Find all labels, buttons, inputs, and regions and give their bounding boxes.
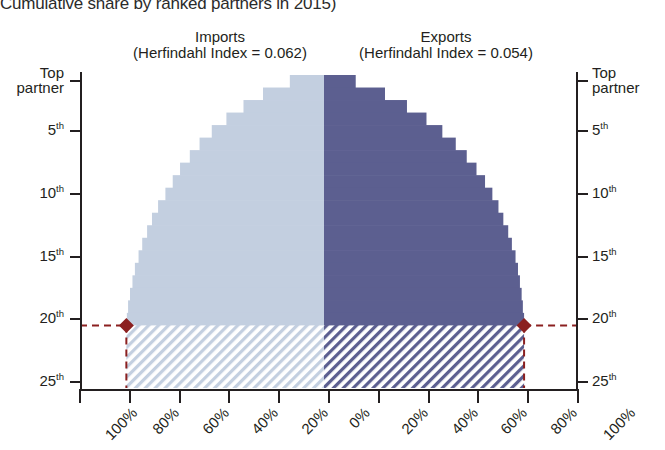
panel-title-exports: Exports [336,29,556,45]
bar-exports-rank-5 [324,125,442,138]
bar-imports-rank-9 [173,175,324,188]
bar-imports-rank-6 [200,138,324,151]
panel-header-exports: Exports (Herfindahl Index = 0.054) [336,29,556,61]
x-axis-label-9: 80% [547,404,580,437]
y-axis-label-l-25: 25th [39,372,64,389]
bar-exports-rank-1 [324,75,356,88]
y-axis-label-r-15: 15th [592,247,617,264]
bar-imports-rank-1 [290,75,324,88]
y-axis-label-r-25: 25th [592,372,617,389]
y-axis-label-l-20: 20th [39,309,64,326]
y-axis-label-l-5: 5th [48,121,64,138]
y-axis-label-l-1: Toppartner [16,65,64,95]
bar-imports-rank-13 [147,225,324,238]
y-axis-right-spine [576,72,578,391]
x-axis-label-5: 0% [345,404,372,431]
panel-title-imports: Imports [110,29,330,45]
y-axis-label-l-15: 15th [39,247,64,264]
bar-imports-rank-24 [126,363,324,376]
x-axis [80,389,578,403]
y-tick-l-25 [70,381,82,383]
bar-exports-rank-12 [324,213,503,226]
y-axis-label-r-10: 10th [592,184,617,201]
y-axis-left-labels: Toppartner5th10th15th20th25th [0,72,64,391]
bar-imports-rank-3 [243,100,324,113]
x-axis-label-4: 20% [298,404,331,437]
x-tick-2 [179,389,181,403]
bar-imports-rank-22 [126,338,324,351]
bar-exports-rank-13 [324,225,508,238]
bar-exports-rank-22 [324,338,524,351]
bar-exports-rank-7 [324,150,467,163]
chart-figure: Cumulative share by ranked partners in 2… [0,0,665,450]
x-tick-4 [278,389,280,403]
y-axis-left [70,72,82,391]
bar-imports-rank-4 [226,113,324,126]
x-axis-label-6: 20% [398,404,431,437]
x-tick-7 [428,389,430,403]
y-axis-right [576,72,588,391]
bar-imports-rank-12 [152,213,324,226]
x-axis-label-0: 100% [101,404,140,443]
y-tick-l-5 [70,130,82,132]
bar-exports-rank-6 [324,138,456,151]
x-axis-label-8: 60% [497,404,530,437]
bar-imports-rank-16 [135,263,324,276]
plot-area [80,75,578,388]
bar-imports-rank-2 [263,88,324,101]
y-axis-left-spine [80,72,82,391]
bar-exports-rank-20 [324,313,524,326]
bar-exports-rank-14 [324,238,512,251]
bar-exports-rank-11 [324,200,498,213]
y-axis-right-labels: Toppartner5th10th15th20th25th [592,72,665,391]
bar-exports-rank-21 [324,325,524,338]
y-tick-l-10 [70,193,82,195]
x-tick-1 [129,389,131,403]
bar-imports-rank-23 [126,350,324,363]
bar-exports-rank-23 [324,350,524,363]
panel-index-imports: (Herfindahl Index = 0.062) [110,45,330,61]
x-tick-5 [328,389,330,403]
y-tick-l-1 [70,80,82,82]
y-tick-r-25 [576,381,588,383]
chart-title: Cumulative share by ranked partners in 2… [0,0,520,14]
x-axis-label-1: 80% [149,404,182,437]
bars-imports [126,75,324,388]
bar-imports-rank-21 [126,325,324,338]
x-tick-10 [577,389,579,403]
bar-imports-rank-20 [127,313,324,326]
bar-exports-rank-2 [324,88,385,101]
bar-imports-rank-19 [128,300,324,313]
bar-exports-rank-17 [324,275,520,288]
bar-imports-rank-14 [142,238,324,251]
y-axis-label-r-5: 5th [592,121,608,138]
plot-svg [80,75,578,388]
bar-exports-rank-18 [324,288,522,301]
bar-exports-rank-25 [324,375,524,388]
bar-exports-rank-9 [324,175,485,188]
y-tick-l-20 [70,318,82,320]
bar-exports-rank-4 [324,113,426,126]
y-axis-label-r-20: 20th [592,309,617,326]
x-axis-label-2: 60% [198,404,231,437]
bar-imports-rank-7 [190,150,324,163]
bar-exports-rank-3 [324,100,407,113]
x-tick-6 [378,389,380,403]
bar-imports-rank-25 [126,375,324,388]
y-tick-r-15 [576,256,588,258]
bars-exports [324,75,524,388]
bar-exports-rank-8 [324,163,477,176]
bar-imports-rank-15 [139,250,324,263]
x-tick-8 [477,389,479,403]
x-axis-label-10: 100% [599,404,638,443]
x-axis-label-7: 40% [447,404,480,437]
panel-header-imports: Imports (Herfindahl Index = 0.062) [110,29,330,61]
y-tick-r-5 [576,130,588,132]
bar-exports-rank-15 [324,250,516,263]
x-tick-0 [79,389,81,403]
panel-index-exports: (Herfindahl Index = 0.054) [336,45,556,61]
y-tick-r-10 [576,193,588,195]
y-tick-r-20 [576,318,588,320]
y-tick-l-15 [70,256,82,258]
y-axis-label-r-1: Toppartner [592,65,640,95]
